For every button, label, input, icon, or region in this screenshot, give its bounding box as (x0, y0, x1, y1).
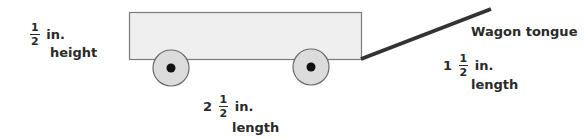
rear-wheel (153, 50, 189, 86)
tongue-length-caption: length (471, 78, 518, 91)
height-unit: in. (46, 27, 65, 42)
body-length-unit: in. (235, 99, 254, 114)
body-length-fraction: 1 2 (219, 94, 229, 119)
height-caption: height (50, 46, 97, 59)
front-wheel-hub (307, 63, 316, 72)
tongue-length-label: 1 1 2 in. (443, 53, 493, 78)
tongue-length-unit: in. (475, 58, 494, 73)
wagon-diagram (0, 0, 587, 139)
rear-wheel-hub (167, 64, 176, 73)
tongue-length-whole: 1 (443, 58, 452, 73)
tongue-length-fraction: 1 2 (459, 53, 469, 78)
body-length-label: 2 1 2 in. (203, 94, 253, 119)
front-wheel (293, 49, 329, 85)
body-length-whole: 2 (203, 99, 212, 114)
tongue-title: Wagon tongue (471, 25, 577, 38)
height-fraction: 1 2 (30, 22, 40, 47)
height-measure-label: 1 2 in. (28, 22, 65, 47)
body-length-caption: length (232, 121, 279, 134)
